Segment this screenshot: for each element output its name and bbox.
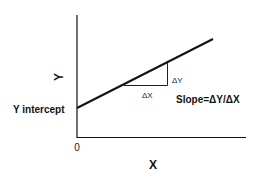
y-intercept-label: Y intercept: [13, 104, 65, 115]
x-axis-label: X: [149, 158, 157, 172]
origin-label: 0: [74, 142, 80, 153]
y-axis-label: Y: [52, 73, 66, 81]
delta-y-label: ΔY: [172, 76, 183, 85]
delta-x-label: ΔX: [142, 91, 153, 100]
slope-formula: Slope=ΔY/ΔX: [176, 94, 240, 105]
slope-diagram: Y X 0 Y intercept ΔX ΔY Slope=ΔY/ΔX: [0, 0, 256, 177]
